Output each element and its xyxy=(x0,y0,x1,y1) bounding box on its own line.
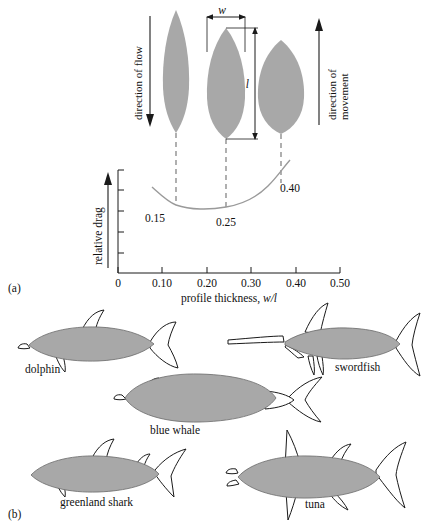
x-axis xyxy=(118,267,340,273)
y-axis-label: relative drag xyxy=(92,207,105,265)
x-axis-label-text: profile thickness, xyxy=(181,292,263,305)
dolphin-body xyxy=(29,327,154,361)
x-tick-label-2: 0.20 xyxy=(197,277,217,289)
dolphin-label: dolphin xyxy=(25,363,60,376)
dolphin-rostrum xyxy=(18,344,30,349)
direction-of-movement-label-line1: direction of xyxy=(326,69,338,120)
x-tick-label-4: 0.40 xyxy=(286,277,306,289)
blue-whale-label: blue whale xyxy=(150,424,200,436)
x-tick-label-5: 0.50 xyxy=(330,277,350,289)
length-symbol-label: l xyxy=(246,78,249,90)
tuna-lower-jaw xyxy=(227,480,239,486)
profile-shape-thick xyxy=(258,40,304,134)
panel-a: direction of flow direction of movement xyxy=(8,4,350,305)
drag-curve xyxy=(152,160,290,209)
direction-of-flow-arrow xyxy=(146,16,154,127)
tuna-body xyxy=(238,456,380,498)
animal-blue-whale: blue whale xyxy=(114,374,322,436)
swordfish-body xyxy=(285,328,400,359)
callout-015: 0.15 xyxy=(145,212,165,224)
tuna-snout xyxy=(226,469,238,474)
callout-025: 0.25 xyxy=(216,216,236,228)
blue-whale-flipper xyxy=(114,395,126,400)
x-tick-label-3: 0.30 xyxy=(241,277,261,289)
animal-swordfish: swordfish xyxy=(228,303,420,376)
tuna-label: tuna xyxy=(305,498,325,510)
swordfish-pelvic-fin-1 xyxy=(308,356,314,375)
greenland-shark-tail-fin xyxy=(155,449,186,497)
dolphin-tail-fluke xyxy=(150,322,178,368)
x-axis-label: profile thickness, w/l xyxy=(181,292,277,305)
swordfish-bill xyxy=(228,336,284,344)
x-tick-label-1: 0.10 xyxy=(152,277,172,289)
x-axis-label-symbol: w/l xyxy=(263,292,277,304)
animal-tuna: tuna xyxy=(226,430,406,520)
tuna-tail-fin xyxy=(376,442,406,508)
blue-whale-body xyxy=(125,374,276,422)
figure-container: direction of flow direction of movement xyxy=(0,0,429,525)
profile-shape-thin xyxy=(163,10,189,133)
panel-b-marker: (b) xyxy=(8,508,22,521)
direction-of-flow-label: direction of flow xyxy=(132,46,144,120)
profile-shape-optimum xyxy=(207,28,245,139)
direction-of-movement-label-line2: movement xyxy=(338,74,350,120)
width-symbol-label: w xyxy=(218,4,226,16)
animal-greenland-shark: greenland shark xyxy=(31,439,186,509)
panel-b: dolphin swordfish xyxy=(8,303,420,521)
y-axis xyxy=(118,170,124,273)
callout-040: 0.40 xyxy=(280,182,300,194)
swordfish-label: swordfish xyxy=(335,361,381,373)
x-tick-label-0: 0 xyxy=(115,277,121,289)
direction-of-movement-arrow xyxy=(315,18,323,125)
greenland-shark-label: greenland shark xyxy=(60,496,133,509)
swordfish-pelvic-fin-2 xyxy=(317,356,323,375)
panel-a-marker: (a) xyxy=(8,282,21,295)
animal-dolphin: dolphin xyxy=(18,310,178,376)
relative-drag-arrow xyxy=(104,172,112,268)
